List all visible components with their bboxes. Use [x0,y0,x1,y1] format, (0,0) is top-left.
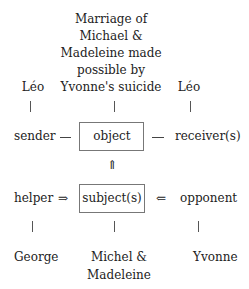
helper-value: George [14,250,58,264]
helper-label: helper [14,191,53,205]
sender-dash [60,137,71,138]
subject-label: subject(s) [82,191,141,205]
subject-value-line-1: Michel & [91,250,147,264]
opponent-label: opponent [180,191,237,205]
subject-connector [114,221,115,232]
sender-label: sender [14,129,56,143]
object-connector [114,101,115,112]
object-description-line-5: Yvonne's suicide [61,80,162,94]
object-description-line-3: Madeleine made [61,46,162,60]
object-label: object [93,129,130,143]
helper-connector [32,221,33,232]
receiver-value: Léo [178,80,200,94]
sender-value: Léo [22,80,44,94]
opponent-value: Yvonne [193,250,237,264]
object-description-line-1: Marriage of [75,12,147,26]
receiver-label: receiver(s) [175,129,241,143]
sender-connector [30,101,31,112]
subject-value-line-2: Madeleine [87,268,151,282]
up-double-arrow-icon: ⇑ [107,158,117,172]
left-double-arrow-icon: ⇐ [156,191,166,205]
object-description-line-2: Michael & [79,29,142,43]
opponent-connector [198,221,199,232]
receiver-dash [152,137,164,138]
object-description-line-4: possible by [77,63,145,77]
receiver-connector [190,101,191,112]
right-double-arrow-icon: ⇒ [58,191,68,205]
